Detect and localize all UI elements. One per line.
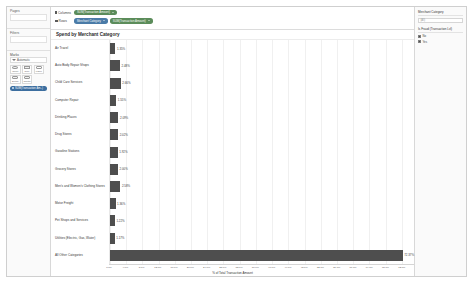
axis-tick-label: 32.0%: [236, 266, 243, 269]
category-label: Child Care Services: [51, 74, 109, 91]
bar-row[interactable]: 72.37%: [110, 247, 414, 264]
bar[interactable]: [110, 215, 115, 226]
axis-tick-label: 48.0%: [301, 266, 308, 269]
bar[interactable]: [110, 147, 118, 158]
bar[interactable]: [110, 250, 403, 261]
pages-card[interactable]: Pages: [7, 7, 50, 29]
bar-value-label: 1.92%: [119, 150, 127, 154]
pages-shelf-dropzone[interactable]: [10, 14, 47, 21]
marks-label-label: Label: [36, 70, 42, 73]
bar-value-label: 1.22%: [116, 219, 124, 223]
axis-tick-label: 68.0%: [382, 266, 389, 269]
filter-search-input[interactable]: (All): [418, 18, 463, 23]
filters-card[interactable]: Filters: [7, 29, 50, 51]
bar-row[interactable]: 1.17%: [110, 230, 414, 247]
category-label: Drug Stores: [51, 126, 109, 143]
worksheet-area: Columns SUM(Transaction Amount) Rows Mer…: [51, 7, 414, 276]
marks-card: Marks Automatic Color Size Label: [7, 51, 50, 276]
columns-shelf-row: Columns SUM(Transaction Amount): [55, 9, 410, 16]
bar[interactable]: [110, 233, 115, 244]
filters-card-title: Filters: [10, 31, 47, 35]
marks-tooltip-button[interactable]: Tooltip: [22, 75, 33, 84]
measure-icon: [12, 87, 14, 89]
bar-row[interactable]: 2.00%: [110, 161, 414, 178]
rows-pill-1[interactable]: SUM(Transaction Amount): [110, 18, 153, 23]
marks-color-label: Color: [12, 70, 18, 73]
marks-field-pill[interactable]: SUM(Transaction Am..): [10, 86, 47, 91]
category-label: Auto Body Repair Shops: [51, 57, 109, 74]
size-icon: [24, 66, 30, 70]
bar[interactable]: [110, 95, 116, 106]
bar[interactable]: [110, 129, 118, 140]
marks-field-pill-label: SUM(Transaction Am..): [15, 87, 43, 90]
bar-row[interactable]: 2.09%: [110, 109, 414, 126]
bar-value-label: 1.55%: [118, 98, 126, 102]
chevron-down-icon: [112, 12, 114, 13]
axis-tick-label: 8.0%: [139, 266, 145, 269]
label-icon: [36, 66, 42, 70]
bar-value-label: 2.09%: [120, 116, 128, 120]
bar-value-label: 2.02%: [120, 133, 128, 137]
axis-tick-label: 12.0%: [154, 266, 161, 269]
filter-card-title: Is Fraud (Transaction Lvl): [418, 27, 463, 33]
axis-tick-label: 16.0%: [171, 266, 178, 269]
detail-icon: [12, 76, 18, 80]
bar-row[interactable]: 2.02%: [110, 126, 414, 143]
marks-detail-button[interactable]: Detail: [10, 75, 21, 84]
rows-pill-0[interactable]: Merchant Category: [74, 18, 108, 23]
category-label: Drinking Places: [51, 109, 109, 126]
bar[interactable]: [110, 164, 118, 175]
category-label: Grocery Stores: [51, 161, 109, 178]
rows-shelf-dropzone[interactable]: Merchant Category SUM(Transaction Amount…: [74, 18, 410, 25]
bar[interactable]: [110, 112, 118, 123]
bar-row[interactable]: 1.36%: [110, 195, 414, 212]
bar[interactable]: [110, 43, 115, 54]
filter-checkbox-item[interactable]: Yes: [418, 40, 463, 44]
category-label: Motor Freight: [51, 195, 109, 212]
mark-type-selector[interactable]: Automatic: [10, 57, 47, 63]
bar-row[interactable]: 1.55%: [110, 92, 414, 109]
pages-card-title: Pages: [10, 9, 47, 13]
axis-tick-label: 4.0%: [122, 266, 128, 269]
marks-color-button[interactable]: Color: [10, 65, 21, 74]
axis-title: % of Total Transaction Amount: [51, 271, 414, 275]
marks-label-button[interactable]: Label: [34, 65, 45, 74]
columns-shelf-dropzone[interactable]: SUM(Transaction Amount): [74, 9, 410, 16]
bars-area: 1.35%2.48%2.66%1.55%2.09%2.02%1.92%2.00%…: [110, 40, 414, 264]
bar[interactable]: [110, 181, 120, 192]
bar[interactable]: [110, 78, 121, 89]
category-label: Gasoline Stations: [51, 143, 109, 160]
axis-tick-label: 72.0%: [398, 266, 405, 269]
axis-tick-label: 44.0%: [284, 266, 291, 269]
chevron-down-icon: [12, 59, 16, 61]
marks-size-button[interactable]: Size: [22, 65, 33, 74]
bar[interactable]: [110, 198, 116, 209]
bar-value-label: 1.35%: [117, 47, 125, 51]
checkbox-icon[interactable]: [418, 35, 421, 38]
bar-row[interactable]: 1.92%: [110, 143, 414, 160]
checkbox-icon[interactable]: [418, 40, 421, 43]
workbook-frame: Pages Filters Marks Automatic Color Size: [6, 6, 467, 277]
filters-shelf-dropzone[interactable]: [10, 36, 47, 43]
columns-shelf-label: Columns: [55, 11, 71, 15]
bar-row[interactable]: 2.66%: [110, 74, 414, 91]
columns-icon: [55, 11, 57, 14]
bar-row[interactable]: 1.35%: [110, 40, 414, 57]
bar[interactable]: [110, 60, 120, 71]
marks-tooltip-label: Tooltip: [23, 80, 30, 83]
chevron-down-icon: [148, 20, 150, 21]
bar-value-label: 2.00%: [120, 167, 128, 171]
bar-row[interactable]: 1.22%: [110, 212, 414, 229]
axis-tick-label: 24.0%: [203, 266, 210, 269]
axis-tick-label: 64.0%: [366, 266, 373, 269]
axis-tick-label: 60.0%: [349, 266, 356, 269]
axis-tick-label: 0.0%: [106, 266, 112, 269]
bar-row[interactable]: 2.48%: [110, 57, 414, 74]
filter-checkbox-item[interactable]: No: [418, 34, 463, 38]
bar-row[interactable]: 2.58%: [110, 178, 414, 195]
columns-pill-0[interactable]: SUM(Transaction Amount): [74, 10, 117, 15]
color-icon: [12, 66, 18, 70]
category-label: Utilities (Electric, Gas, Water): [51, 230, 109, 247]
axis-ticks: 0.0%4.0%8.0%12.0%16.0%20.0%24.0%28.0%32.…: [109, 264, 414, 270]
rows-icon: [55, 20, 58, 23]
